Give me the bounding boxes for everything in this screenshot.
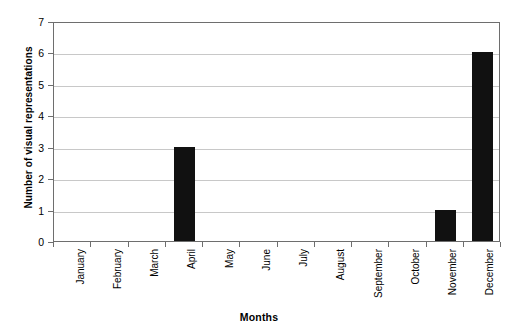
y-tick-label: 5 <box>30 80 44 90</box>
plot-area <box>53 22 500 242</box>
y-tick-label: 2 <box>30 174 44 184</box>
x-tick-mark <box>202 242 203 247</box>
x-tick-mark <box>239 242 240 247</box>
x-tick-mark <box>165 242 166 247</box>
y-tick-label: 3 <box>30 143 44 153</box>
y-tick-label: 1 <box>30 206 44 216</box>
x-tick-mark <box>53 242 54 247</box>
x-tick-mark <box>388 242 389 247</box>
x-tick-mark <box>314 242 315 247</box>
bar <box>435 210 456 241</box>
y-tick-label: 6 <box>30 48 44 58</box>
bar-chart: Number of visual representations 0123456… <box>0 0 518 335</box>
y-tick-label: 4 <box>30 111 44 121</box>
x-tick-mark <box>277 242 278 247</box>
x-tick-mark <box>463 242 464 247</box>
bar <box>472 52 493 241</box>
y-tick-label: 7 <box>30 17 44 27</box>
bar <box>174 147 195 241</box>
x-tick-mark <box>500 242 501 247</box>
x-tick-mark <box>90 242 91 247</box>
y-tick-label: 0 <box>30 237 44 247</box>
x-tick-mark <box>351 242 352 247</box>
x-tick-mark <box>426 242 427 247</box>
bars-group <box>54 23 499 241</box>
x-tick-mark <box>128 242 129 247</box>
x-axis-title: Months <box>0 311 518 323</box>
